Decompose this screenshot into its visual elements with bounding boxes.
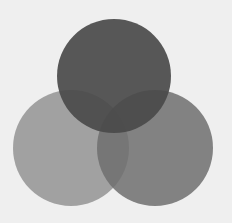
venn-diagram [0,0,232,223]
top-circle [57,19,171,133]
